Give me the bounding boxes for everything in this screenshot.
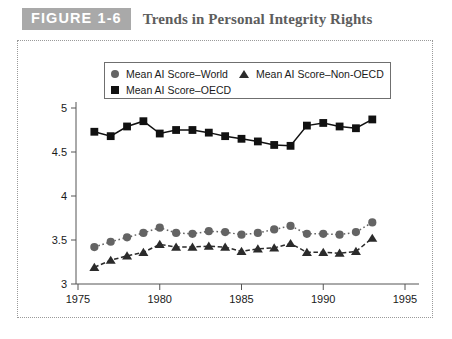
triangle-marker-icon (239, 70, 249, 78)
legend-label-non-oecd: Mean AI Score–Non-OECD (256, 68, 384, 80)
legend-row-1: Mean AI Score–World Mean AI Score–Non-OE… (111, 66, 390, 82)
figure-number-badge: FIGURE 1-6 (22, 8, 131, 30)
legend-entry-non-oecd: Mean AI Score–Non-OECD (239, 68, 384, 80)
circle-marker-icon (111, 70, 119, 78)
square-marker-icon (111, 86, 119, 94)
chart-legend: Mean AI Score–World Mean AI Score–Non-OE… (104, 62, 391, 99)
figure-title: Trends in Personal Integrity Rights (143, 11, 373, 28)
legend-row-2: Mean AI Score–OECD (111, 82, 390, 98)
figure-header: FIGURE 1-6 Trends in Personal Integrity … (22, 8, 372, 30)
legend-entry-world: Mean AI Score–World (111, 68, 228, 80)
legend-entry-oecd: Mean AI Score–OECD (111, 84, 231, 96)
legend-label-oecd: Mean AI Score–OECD (126, 84, 231, 96)
legend-label-world: Mean AI Score–World (126, 68, 228, 80)
figure-root: FIGURE 1-6 Trends in Personal Integrity … (0, 0, 452, 339)
